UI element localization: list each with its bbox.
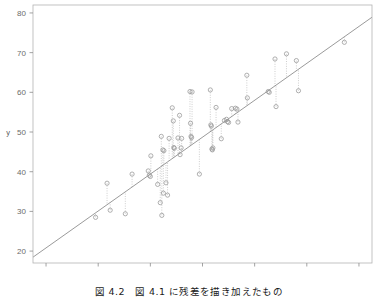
- svg-text:50: 50: [198, 268, 207, 270]
- scatter-plot-svg: 2030405060708020304050607080xy: [0, 0, 378, 270]
- svg-text:70: 70: [17, 49, 26, 58]
- svg-text:40: 40: [146, 268, 155, 270]
- scatter-plot-figure: 2030405060708020304050607080xy: [0, 0, 378, 270]
- svg-text:30: 30: [94, 268, 103, 270]
- figure-caption: 図 4.2 図 4.1 に残差を描き加えたもの: [0, 284, 378, 298]
- svg-text:y: y: [6, 128, 10, 137]
- svg-text:50: 50: [17, 128, 26, 137]
- axes-group: [30, 5, 373, 267]
- svg-text:80: 80: [17, 9, 26, 18]
- svg-text:80: 80: [355, 268, 364, 270]
- svg-text:20: 20: [42, 268, 51, 270]
- data-points-group: [93, 40, 346, 219]
- svg-text:40: 40: [17, 168, 26, 177]
- svg-text:20: 20: [17, 247, 26, 256]
- axis-labels-group: 2030405060708020304050607080xy: [6, 9, 364, 270]
- svg-text:60: 60: [17, 88, 26, 97]
- residual-lines-group: [96, 37, 345, 218]
- svg-text:30: 30: [17, 207, 26, 216]
- svg-text:70: 70: [302, 268, 311, 270]
- svg-text:60: 60: [250, 268, 259, 270]
- regression-line-group: [33, 17, 372, 257]
